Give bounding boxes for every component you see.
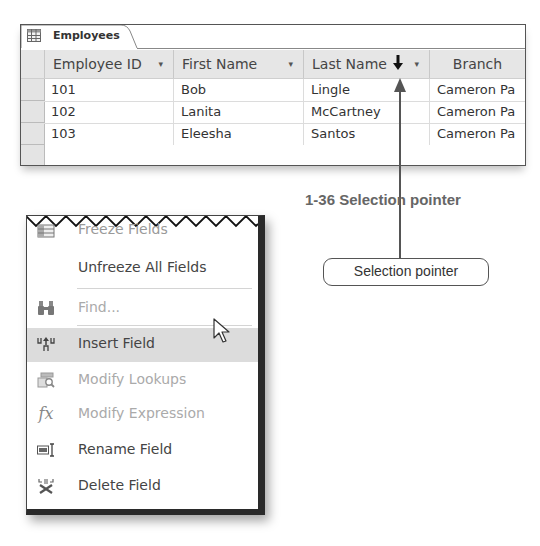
tab-employees[interactable]: Employees [21, 25, 139, 48]
fx-icon: fx [37, 406, 55, 422]
menu-item-label: Unfreeze All Fields [78, 259, 207, 275]
modify-lookups-icon [37, 372, 55, 388]
menu-item-label: Modify Expression [78, 405, 205, 421]
cell-branch[interactable]: Cameron Pa [429, 101, 525, 123]
column-header-branch[interactable]: Branch [429, 50, 525, 78]
mouse-cursor-icon [213, 318, 231, 344]
callout-label: Selection pointer [323, 258, 489, 286]
record-selector-divider [21, 122, 44, 123]
menu-item-modify-expression[interactable]: fx Modify Expression [27, 398, 258, 430]
column-dropdown-icon[interactable]: ▾ [158, 50, 163, 78]
cell-employee-id[interactable]: 103 [44, 123, 173, 145]
figure-caption: 1-36 Selection pointer [305, 191, 461, 208]
menu-item-freeze-fields[interactable]: Freeze Fields [27, 215, 258, 246]
menu-item-label: Rename Field [78, 441, 172, 457]
object-tab-strip: Employees [21, 25, 525, 49]
column-header-employee-id[interactable]: Employee ID ▾ [44, 50, 173, 78]
cell-last-name[interactable]: McCartney [303, 101, 429, 123]
binoculars-icon [37, 300, 55, 316]
cell-first-name[interactable]: Bob [173, 79, 303, 101]
rename-field-icon [37, 442, 55, 458]
column-header-label: First Name [182, 56, 257, 72]
menu-item-rename-field[interactable]: Rename Field [27, 434, 258, 466]
menu-item-delete-field[interactable]: Delete Field [27, 470, 258, 502]
callout-arrow [390, 70, 410, 280]
column-dropdown-icon[interactable]: ▾ [288, 50, 293, 78]
cell-first-name[interactable]: Lanita [173, 101, 303, 123]
field-context-menu: Freeze Fields Unfreeze All Fields Find..… [26, 215, 265, 515]
column-header-last-name[interactable]: Last Name ▾ [303, 50, 429, 78]
cell-branch[interactable]: Cameron Pa [429, 79, 525, 101]
delete-field-icon [37, 478, 55, 494]
menu-item-label: Modify Lookups [78, 371, 186, 387]
cell-last-name[interactable]: Santos [303, 123, 429, 145]
column-header-label: Employee ID [53, 56, 142, 72]
column-header-label: Branch [453, 56, 502, 72]
freeze-fields-icon [37, 222, 55, 238]
table-row[interactable]: 101 Bob Lingle Cameron Pa [44, 79, 525, 102]
menu-item-label: Insert Field [78, 335, 155, 351]
employees-datasheet: Employees Employee ID ▾ First Name ▾ Las… [20, 24, 526, 166]
cell-first-name[interactable]: Eleesha [173, 123, 303, 145]
menu-item-label: Delete Field [78, 477, 161, 493]
selection-pointer-icon [393, 55, 403, 71]
menu-item-label: Find... [78, 299, 120, 315]
menu-item-label: Freeze Fields [78, 221, 168, 237]
table-row[interactable]: 102 Lanita McCartney Cameron Pa [44, 101, 525, 124]
cell-last-name[interactable]: Lingle [303, 79, 429, 101]
table-icon [27, 29, 41, 42]
table-row[interactable]: 103 Eleesha Santos Cameron Pa [44, 123, 525, 145]
column-dropdown-icon[interactable]: ▾ [414, 50, 419, 78]
record-selector-divider [21, 100, 44, 101]
menu-separator [77, 288, 252, 289]
cell-employee-id[interactable]: 101 [44, 79, 173, 101]
cell-branch[interactable]: Cameron Pa [429, 123, 525, 145]
menu-item-unfreeze-all-fields[interactable]: Unfreeze All Fields [27, 252, 258, 284]
tab-baseline [137, 48, 525, 49]
column-header-row: Employee ID ▾ First Name ▾ Last Name ▾ B… [21, 50, 525, 79]
menu-item-modify-lookups[interactable]: Modify Lookups [27, 364, 258, 396]
tab-label: Employees [53, 29, 120, 42]
column-header-label: Last Name [312, 56, 387, 72]
record-selector-divider [21, 144, 44, 145]
column-header-first-name[interactable]: First Name ▾ [173, 50, 303, 78]
insert-field-icon [37, 336, 55, 352]
cell-employee-id[interactable]: 102 [44, 101, 173, 123]
